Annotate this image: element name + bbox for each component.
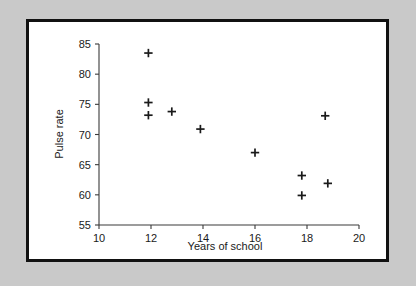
y-tick-label: 85 bbox=[79, 38, 91, 50]
data-point bbox=[144, 98, 152, 106]
y-tick-label: 55 bbox=[79, 219, 91, 231]
x-tick-label: 18 bbox=[301, 232, 313, 244]
y-tick-label: 65 bbox=[79, 159, 91, 171]
y-tick-label: 60 bbox=[79, 189, 91, 201]
data-points bbox=[144, 49, 332, 200]
plot-frame: 55606570758085 101214161820 Years of sch… bbox=[26, 19, 389, 262]
x-axis-title: Years of school bbox=[188, 240, 263, 252]
y-tick-label: 75 bbox=[79, 98, 91, 110]
y-axis-title: Pulse rate bbox=[53, 109, 65, 159]
data-point bbox=[321, 112, 329, 120]
figure-container: 55606570758085 101214161820 Years of sch… bbox=[0, 0, 416, 286]
y-tick-label: 80 bbox=[79, 68, 91, 80]
data-point bbox=[324, 179, 332, 187]
x-tick-label: 12 bbox=[145, 232, 157, 244]
data-point bbox=[144, 111, 152, 119]
data-point bbox=[168, 107, 176, 115]
x-tick-label: 10 bbox=[93, 232, 105, 244]
data-point bbox=[196, 125, 204, 133]
y-tick-label: 70 bbox=[79, 129, 91, 141]
y-axis: 55606570758085 bbox=[79, 38, 99, 231]
plot-card: 55606570758085 101214161820 Years of sch… bbox=[29, 22, 386, 259]
data-point bbox=[144, 49, 152, 57]
x-tick-label: 20 bbox=[353, 232, 365, 244]
data-point bbox=[251, 148, 259, 156]
data-point bbox=[298, 191, 306, 199]
data-point bbox=[298, 171, 306, 179]
scatter-chart: 55606570758085 101214161820 Years of sch… bbox=[29, 22, 386, 259]
